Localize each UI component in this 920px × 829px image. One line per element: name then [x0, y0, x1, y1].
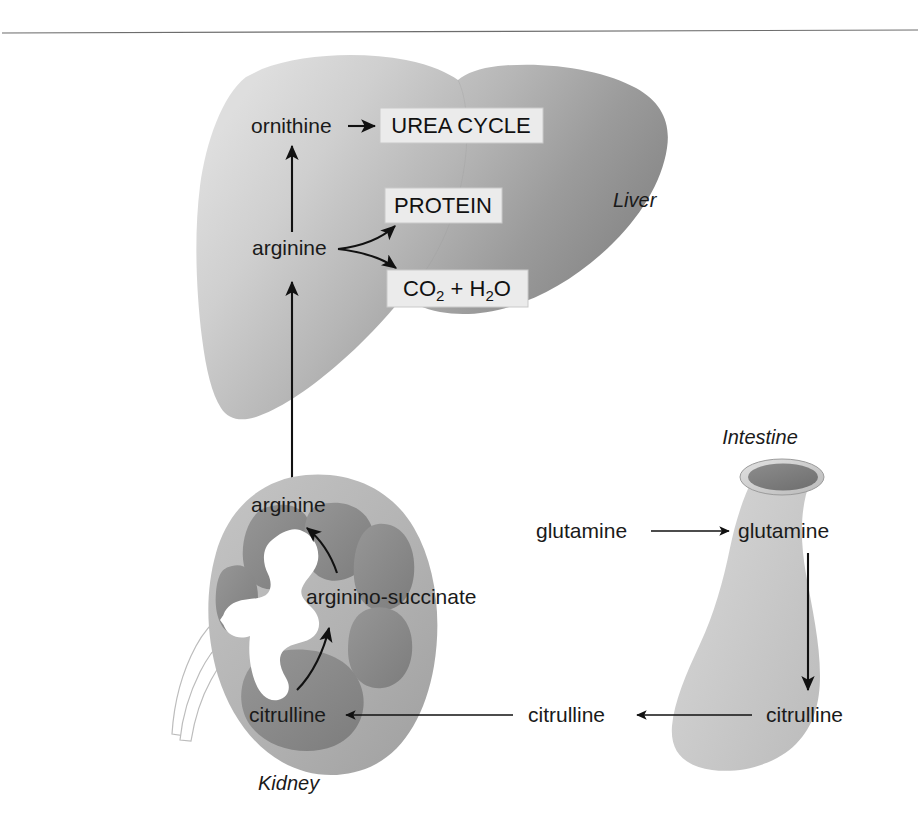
urea-cycle-label: UREA CYCLE	[391, 113, 530, 138]
kidney-arginine-label: arginine	[251, 493, 326, 516]
top-divider-rule	[2, 30, 918, 33]
diagram-canvas: Liver UREA CYCLE PROTEIN CO2 + H2O ornit…	[0, 0, 920, 829]
co2-h2o-box: CO2 + H2O	[387, 270, 528, 307]
liver-organ-label: Liver	[613, 189, 658, 211]
intestine-organ-label: Intestine	[722, 426, 798, 448]
co2-h2o-label: CO2 + H2O	[403, 276, 511, 304]
intestine-lumen	[748, 464, 818, 491]
protein-box: PROTEIN	[385, 188, 502, 223]
intestine-glutamine-label: glutamine	[738, 519, 829, 542]
blood-glutamine-label: glutamine	[536, 519, 627, 542]
h2o-suffix: O	[494, 276, 511, 301]
kidney-organ-group	[172, 474, 437, 775]
blood-citrulline-label: citrulline	[528, 703, 605, 726]
co2-subscript: 2	[436, 287, 444, 304]
protein-label: PROTEIN	[394, 193, 492, 218]
co2-plus: + H	[444, 276, 485, 301]
kidney-organ-label: Kidney	[258, 772, 320, 794]
kidney-argininosuccinate-label: arginino-succinate	[306, 585, 476, 608]
kidney-citrulline-label: citrulline	[249, 703, 326, 726]
diagram-svg: Liver UREA CYCLE PROTEIN CO2 + H2O ornit…	[0, 0, 920, 829]
co2-prefix: CO	[403, 276, 436, 301]
liver-arginine-label: arginine	[252, 236, 327, 259]
h2o-subscript: 2	[485, 287, 493, 304]
medulla-lobe-right-lower	[348, 607, 412, 688]
urea-cycle-box: UREA CYCLE	[380, 108, 543, 143]
liver-ornithine-label: ornithine	[251, 114, 332, 137]
intestine-citrulline-label: citrulline	[766, 703, 843, 726]
